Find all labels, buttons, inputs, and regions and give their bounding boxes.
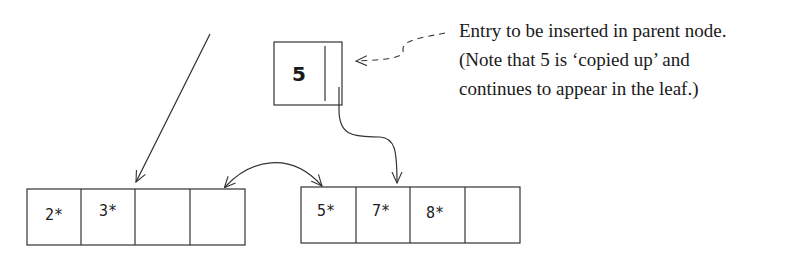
parent-entry-node: 5 [274, 42, 342, 105]
parent-pointer-arrow [136, 34, 210, 182]
sibling-link-arrow [225, 163, 322, 187]
left-leaf-cell-1: 2* [45, 206, 63, 224]
parent-entry-key: 5 [292, 62, 306, 86]
annotation-text: Entry to be inserted in parent node. (No… [459, 16, 727, 103]
right-leaf-node: 5* 7* 8* [301, 187, 520, 243]
annotation-line-2: (Note that 5 is ‘copied up’ and [459, 45, 727, 74]
right-leaf-cell-3: 8* [426, 204, 444, 222]
annotation-line-1: Entry to be inserted in parent node. [459, 16, 727, 45]
right-leaf-cell-1: 5* [317, 202, 335, 220]
left-leaf-cell-2: 3* [99, 202, 117, 220]
annotation-line-3: continues to appear in the leaf.) [459, 74, 727, 103]
annotation-dashed-arrow [356, 33, 445, 61]
entry-to-right-leaf-arrow [339, 87, 397, 183]
left-leaf-node: 2* 3* [27, 189, 245, 245]
right-leaf-cell-2: 7* [372, 202, 390, 220]
